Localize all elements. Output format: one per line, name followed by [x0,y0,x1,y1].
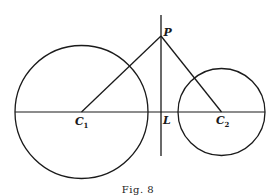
label-c2-sub: 2 [225,120,230,129]
label-c1-sub: 1 [84,121,89,130]
segment-p-c1 [82,36,162,112]
figure-caption: Fig. 8 [122,184,154,195]
label-l: L [162,114,171,127]
label-c2: C 2 [216,114,230,129]
label-c1: C 1 [75,115,89,130]
figure-diagram: P L C 1 C 2 Fig. 8 [0,0,276,196]
label-p: P [163,26,173,39]
segment-p-c2 [161,36,222,112]
